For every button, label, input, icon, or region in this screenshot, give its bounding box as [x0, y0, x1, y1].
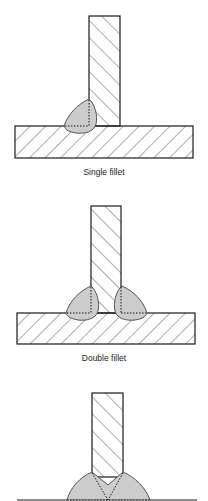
base-plate: [17, 313, 195, 344]
fillet-weld-bead-right: [114, 286, 147, 320]
base-plate: [15, 126, 193, 158]
figure-caption-double-fillet: Double fillet: [0, 353, 208, 363]
vertical-member: [92, 393, 123, 477]
fillet-weld-bead-left: [66, 286, 99, 320]
fillet-weld-bead: [64, 99, 97, 133]
double-fillet-figure: [17, 206, 195, 344]
weld-diagram: [0, 0, 208, 501]
third-weld-figure: [17, 393, 197, 500]
single-fillet-figure: [15, 16, 193, 158]
figure-caption-single-fillet: Single fillet: [0, 167, 208, 177]
